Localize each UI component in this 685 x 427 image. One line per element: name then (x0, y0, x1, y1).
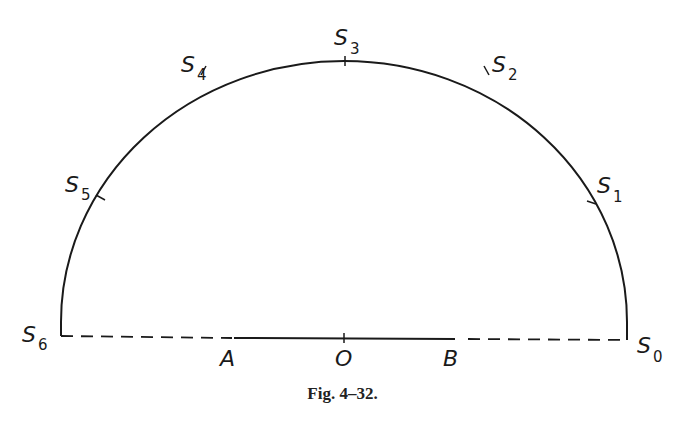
semicircle-arc (61, 61, 627, 340)
arc-ticks (96, 56, 596, 204)
svg-text:S: S (637, 333, 651, 358)
svg-text:S: S (597, 173, 611, 198)
label-b: B (443, 346, 458, 371)
tick-s5 (96, 195, 105, 200)
dashed-line-right (468, 339, 627, 340)
svg-text:6: 6 (38, 336, 48, 354)
svg-text:0: 0 (653, 348, 663, 366)
label-s6: S 6 (22, 322, 48, 354)
label-o: O (335, 346, 352, 371)
svg-text:4: 4 (197, 66, 207, 84)
dashed-line-left (61, 336, 232, 338)
svg-text:S: S (65, 172, 79, 197)
figure-caption: Fig. 4–32. (0, 384, 685, 404)
semicircle-diagram: S 0 S 1 S 2 S 3 S 4 S 5 S 6 A O B (0, 0, 685, 427)
svg-text:3: 3 (350, 40, 360, 58)
svg-text:2: 2 (508, 66, 518, 84)
label-s1: S 1 (597, 173, 623, 206)
svg-text:S: S (334, 25, 348, 50)
label-s2: S 2 (492, 52, 518, 84)
svg-text:5: 5 (81, 186, 91, 204)
svg-text:S: S (181, 52, 195, 77)
label-s3: S 3 (334, 25, 360, 58)
label-s5: S 5 (65, 172, 91, 204)
svg-text:1: 1 (613, 188, 623, 206)
label-a: A (218, 346, 235, 371)
svg-text:S: S (22, 322, 36, 347)
label-s4: S 4 (181, 52, 207, 84)
tick-s2 (484, 66, 489, 75)
svg-text:S: S (492, 52, 506, 77)
label-s0: S 0 (637, 333, 663, 366)
